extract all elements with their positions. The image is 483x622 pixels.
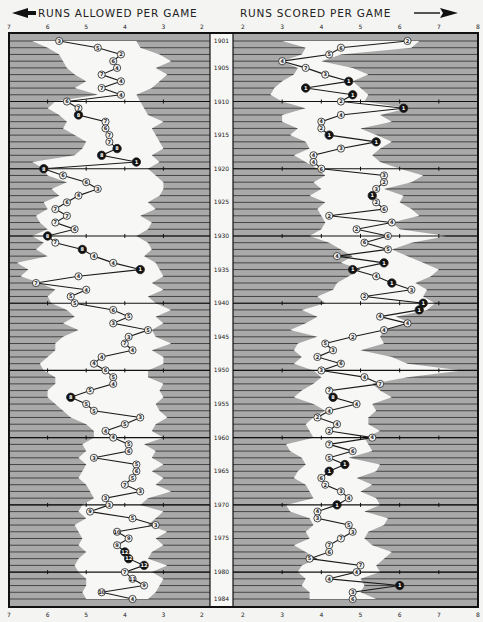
finish-label: 7: [100, 71, 104, 77]
axis-tick-label: 6: [46, 611, 50, 618]
finish-label: 7: [54, 239, 58, 245]
axis-tick-label: 2: [200, 23, 204, 30]
finish-label: 4: [316, 508, 320, 514]
finish-label: 3: [92, 455, 96, 461]
finish-label: 7: [378, 381, 382, 387]
finish-label: 4: [77, 273, 81, 279]
finish-label: 4: [335, 421, 339, 427]
axis-tick-label: 4: [319, 611, 323, 618]
finish-label: 4: [104, 428, 108, 434]
bottom-axis-ticks: 7654322345678: [7, 611, 480, 618]
finish-label: 12: [121, 549, 128, 555]
finish-label: 9: [115, 542, 119, 548]
finish-label: 4: [406, 320, 410, 326]
finish-label: 8: [42, 166, 46, 172]
finish-label: 9: [127, 535, 131, 541]
arrow-right-icon: [440, 8, 458, 18]
finish-label: 4: [111, 381, 115, 387]
finish-label: 3: [351, 589, 355, 595]
year-label: 1950: [214, 366, 229, 373]
finish-label: 4: [335, 253, 339, 259]
finish-label: 3: [138, 414, 142, 420]
left-panel: 3526474746787677881866346777687844147455…: [9, 33, 210, 607]
finish-label: 6: [61, 172, 65, 178]
finish-label: 4: [84, 287, 88, 293]
finish-label: 8: [115, 145, 119, 151]
axis-tick-label: 5: [84, 611, 88, 618]
finish-label: 3: [324, 71, 328, 77]
finish-label: 6: [382, 206, 386, 212]
chart-header: RUNS ALLOWED PER GAME RUNS SCORED PER GA…: [12, 7, 458, 19]
finish-label: 4: [119, 78, 123, 84]
finish-label: 3: [111, 320, 115, 326]
finish-label: 2: [327, 428, 331, 434]
finish-label: 1: [351, 266, 355, 272]
finish-label: 5: [69, 293, 73, 299]
finish-label: 4: [355, 401, 359, 407]
axis-tick-label: 6: [46, 23, 50, 30]
finish-label: 7: [34, 280, 38, 286]
finish-label: 4: [312, 159, 316, 165]
finish-label: 6: [111, 307, 115, 313]
finish-label: 6: [84, 179, 88, 185]
finish-label: 6: [104, 367, 108, 373]
finish-label: 3: [104, 495, 108, 501]
finish-label: 6: [339, 360, 343, 366]
axis-tick-label: 3: [161, 611, 165, 618]
finish-label: 1: [351, 92, 355, 98]
finish-label: 2: [363, 293, 367, 299]
finish-label: 6: [73, 226, 77, 232]
finish-label: 6: [65, 98, 69, 104]
finish-label: 5: [88, 387, 92, 393]
finish-label: 8: [69, 394, 73, 400]
finish-label: 6: [104, 125, 108, 131]
year-label: 1960: [214, 434, 229, 441]
finish-label: 7: [54, 206, 58, 212]
year-label: 1970: [214, 501, 229, 508]
finish-label: 3: [96, 186, 100, 192]
finish-label: 4: [390, 219, 394, 225]
finish-label: 7: [359, 562, 363, 568]
year-label: 1940: [214, 299, 229, 306]
finish-label: 4: [111, 260, 115, 266]
finish-label: 5: [308, 555, 312, 561]
finish-label: 7: [327, 542, 331, 548]
finish-label: 4: [92, 360, 96, 366]
finish-label: 7: [327, 387, 331, 393]
finish-label: 7: [108, 139, 112, 145]
finish-label: 1: [390, 280, 394, 286]
finish-label: 8: [46, 233, 50, 239]
finish-label: 3: [108, 502, 112, 508]
year-column-background: [210, 33, 233, 607]
finish-label: 6: [351, 448, 355, 454]
year-column: 1901190519101915192019251930193519401945…: [210, 33, 233, 607]
year-label: 1975: [214, 534, 229, 541]
finish-label: 4: [312, 152, 316, 158]
finish-label: 4: [320, 118, 324, 124]
finish-label: 1: [135, 159, 139, 165]
year-label: 1915: [214, 131, 229, 138]
finish-label: 12: [141, 562, 148, 568]
year-label: 1901: [214, 37, 229, 44]
axis-tick-label: 5: [359, 611, 363, 618]
finish-label: 5: [127, 313, 131, 319]
finish-label: 6: [386, 233, 390, 239]
finish-label: 3: [339, 488, 343, 494]
finish-label: 2: [382, 179, 386, 185]
finish-label: 2: [327, 213, 331, 219]
finish-label: 6: [320, 166, 324, 172]
finish-label: 3: [57, 38, 61, 44]
finish-label: 2: [351, 334, 355, 340]
finish-label: 4: [371, 434, 375, 440]
arrow-left-icon: [12, 8, 36, 18]
finish-label: 8: [100, 152, 104, 158]
finish-label: 7: [54, 219, 58, 225]
finish-label: 7: [65, 213, 69, 219]
finish-label: 4: [355, 569, 359, 575]
right-axis-title: RUNS SCORED PER GAME: [240, 7, 391, 19]
finish-label: 3: [331, 347, 335, 353]
axis-tick-label: 8: [476, 23, 480, 30]
finish-label: 2: [316, 354, 320, 360]
finish-label: 6: [111, 58, 115, 64]
axis-tick-label: 5: [359, 23, 363, 30]
